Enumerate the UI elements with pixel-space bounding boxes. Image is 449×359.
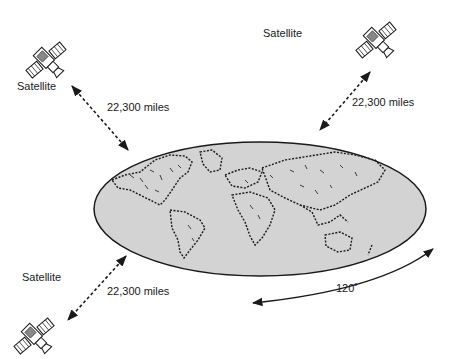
- distance-arrow-top-left: [72, 86, 128, 150]
- diagram-canvas: [0, 0, 449, 359]
- satellite-icon-top-left: [26, 42, 66, 78]
- distance-label-bottom-left: 22,300 miles: [107, 285, 169, 297]
- satellite-label-bottom-left: Satellite: [22, 271, 61, 283]
- distance-label-top-left: 22,300 miles: [107, 101, 169, 113]
- earth-ellipse: [94, 142, 426, 276]
- angle-label: 120˚: [336, 282, 358, 294]
- satellite-label-top-right: Satellite: [263, 27, 302, 39]
- satellite-icon-top-right: [356, 22, 396, 58]
- satellite-icon-bottom-left: [14, 318, 54, 354]
- satellite-label-top-left: Satellite: [17, 80, 56, 92]
- satellite-diagram: Satellite 22,300 miles Satellite 22,300 …: [0, 0, 449, 359]
- distance-label-top-right: 22,300 miles: [352, 96, 414, 108]
